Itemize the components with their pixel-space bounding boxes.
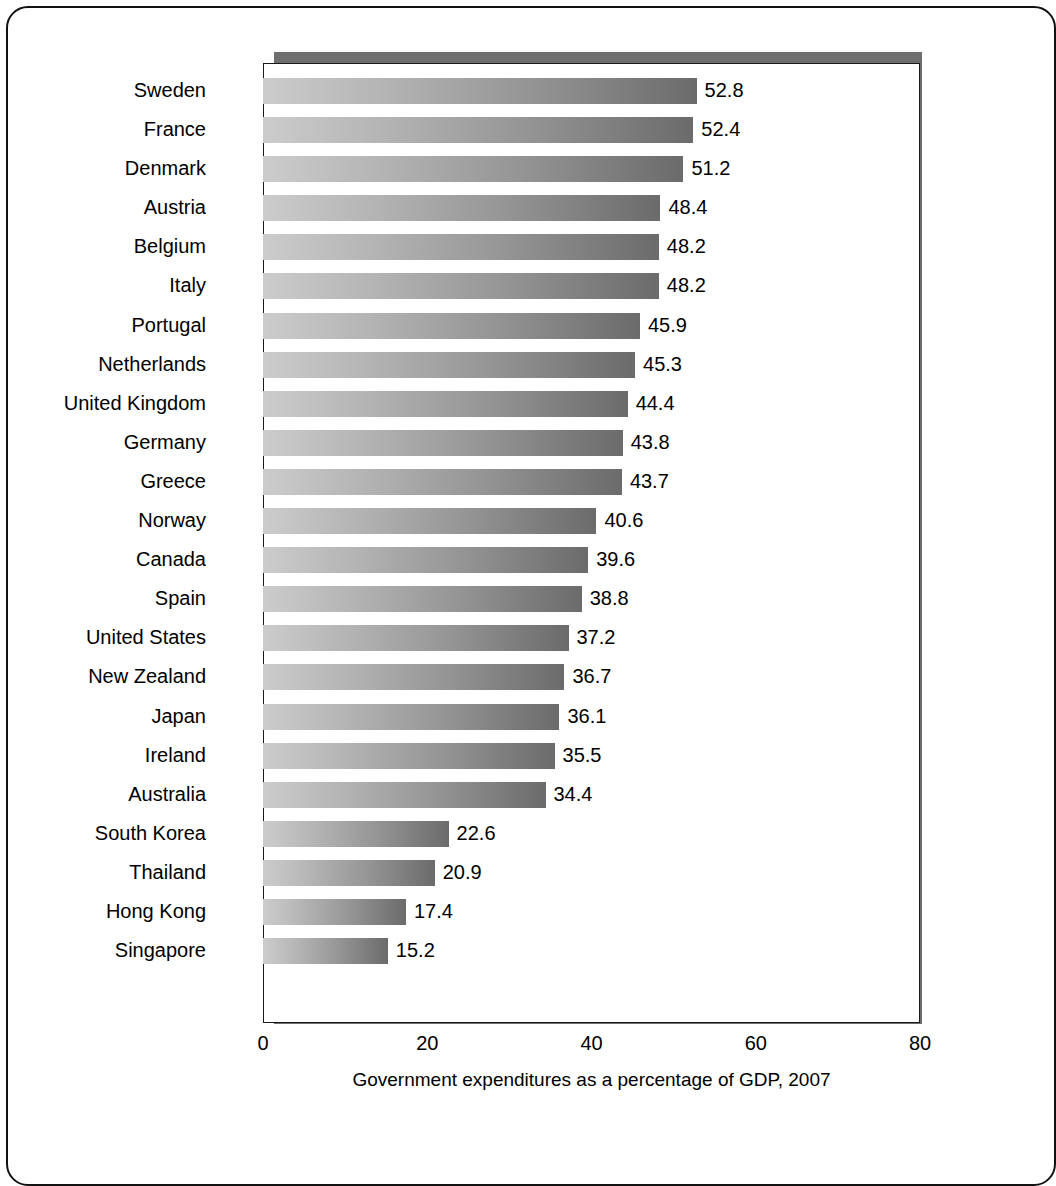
bar-row: Germany43.8 — [263, 424, 920, 463]
bar-value-label: 15.2 — [396, 937, 435, 963]
bar — [263, 352, 635, 378]
bar — [263, 156, 683, 182]
bar — [263, 313, 640, 339]
bar-rows-container: Sweden52.8France52.4Denmark51.2Austria48… — [263, 72, 920, 1017]
bar-row: Norway40.6 — [263, 502, 920, 541]
bar-value-label: 43.7 — [630, 468, 669, 494]
bar-row: Thailand20.9 — [263, 854, 920, 893]
bar-value-label: 37.2 — [577, 624, 616, 650]
category-label: New Zealand — [88, 662, 206, 690]
bar — [263, 117, 693, 143]
category-label: Austria — [144, 193, 206, 221]
category-label: France — [144, 115, 206, 143]
category-label: Portugal — [132, 311, 207, 339]
bar-value-label: 44.4 — [636, 390, 675, 416]
bar-row: Denmark51.2 — [263, 150, 920, 189]
bar-row: Ireland35.5 — [263, 737, 920, 776]
bar-row: Hong Kong17.4 — [263, 893, 920, 932]
bar-value-label: 22.6 — [457, 820, 496, 846]
bar — [263, 469, 622, 495]
bar-value-label: 20.9 — [443, 859, 482, 885]
bar — [263, 782, 546, 808]
category-label: Denmark — [125, 154, 206, 182]
bar-row: Canada39.6 — [263, 541, 920, 580]
bar-row: United States37.2 — [263, 619, 920, 658]
category-label: Thailand — [129, 858, 206, 886]
bar-row: New Zealand36.7 — [263, 658, 920, 697]
bar-value-label: 48.2 — [667, 272, 706, 298]
bar — [263, 508, 596, 534]
x-axis-tick-label: 20 — [416, 1031, 438, 1055]
bar-value-label: 34.4 — [554, 781, 593, 807]
category-label: Germany — [124, 428, 206, 456]
category-label: Italy — [169, 271, 206, 299]
bar-value-label: 45.3 — [643, 351, 682, 377]
bar-value-label: 45.9 — [648, 312, 687, 338]
bar-value-label: 51.2 — [691, 155, 730, 181]
category-label: Canada — [136, 545, 206, 573]
bar — [263, 195, 660, 221]
category-label: Ireland — [145, 741, 206, 769]
bar-row: Austria48.4 — [263, 189, 920, 228]
bar — [263, 704, 559, 730]
bar-row: Singapore15.2 — [263, 932, 920, 971]
x-axis-tick-label: 40 — [580, 1031, 602, 1055]
bar-row: France52.4 — [263, 111, 920, 150]
category-label: Hong Kong — [106, 897, 206, 925]
bar-row: Spain38.8 — [263, 580, 920, 619]
bar-value-label: 35.5 — [563, 742, 602, 768]
category-label: Belgium — [134, 232, 206, 260]
bar — [263, 78, 697, 104]
bar — [263, 234, 659, 260]
category-label: Sweden — [134, 76, 206, 104]
bar — [263, 743, 555, 769]
x-axis-caption: Government expenditures as a percentage … — [263, 1068, 920, 1092]
bar-value-label: 36.1 — [567, 703, 606, 729]
bar-row: Australia34.4 — [263, 776, 920, 815]
category-label: Greece — [140, 467, 206, 495]
bar — [263, 547, 588, 573]
x-axis-tick-label: 0 — [257, 1031, 268, 1055]
bar-row: Sweden52.8 — [263, 72, 920, 111]
bar-value-label: 17.4 — [414, 898, 453, 924]
category-label: Spain — [155, 584, 206, 612]
x-axis-tick-label: 60 — [745, 1031, 767, 1055]
bar-row: Netherlands45.3 — [263, 346, 920, 385]
bar-value-label: 39.6 — [596, 546, 635, 572]
bar — [263, 899, 406, 925]
bar-value-label: 48.4 — [668, 194, 707, 220]
bar — [263, 391, 628, 417]
category-label: South Korea — [95, 819, 206, 847]
bar-row: Italy48.2 — [263, 267, 920, 306]
bar — [263, 586, 582, 612]
bar-row: Japan36.1 — [263, 698, 920, 737]
category-label: Japan — [152, 702, 207, 730]
category-label: Netherlands — [98, 350, 206, 378]
bar-value-label: 40.6 — [604, 507, 643, 533]
x-axis-tick-label: 80 — [909, 1031, 931, 1055]
bar-row: Belgium48.2 — [263, 228, 920, 267]
bar-row: South Korea22.6 — [263, 815, 920, 854]
bar-value-label: 52.4 — [701, 116, 740, 142]
bar-row: Greece43.7 — [263, 463, 920, 502]
bar — [263, 821, 449, 847]
bar-value-label: 36.7 — [572, 663, 611, 689]
bar-row: Portugal45.9 — [263, 307, 920, 346]
bar-value-label: 52.8 — [705, 77, 744, 103]
bar — [263, 625, 569, 651]
bar-row: United Kingdom44.4 — [263, 385, 920, 424]
category-label: United Kingdom — [64, 389, 206, 417]
bar-value-label: 38.8 — [590, 585, 629, 611]
bar — [263, 273, 659, 299]
bar — [263, 938, 388, 964]
bar — [263, 860, 435, 886]
bar — [263, 664, 564, 690]
category-label: Norway — [138, 506, 206, 534]
bar — [263, 430, 623, 456]
category-label: Australia — [128, 780, 206, 808]
category-label: Singapore — [115, 936, 206, 964]
category-label: United States — [86, 623, 206, 651]
bar-value-label: 43.8 — [631, 429, 670, 455]
bar-value-label: 48.2 — [667, 233, 706, 259]
